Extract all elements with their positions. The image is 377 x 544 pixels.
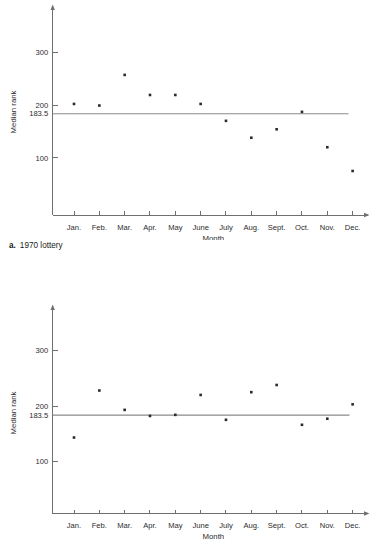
data-point-June	[199, 394, 202, 397]
y-axis-arrow-icon	[51, 5, 55, 11]
chart-panel-b: 300200183.5100Jan.Feb.Mar.Apr.MayJuneJul…	[0, 298, 377, 544]
data-point-Sept	[275, 128, 278, 131]
x-tick-label-Apr: Apr.	[143, 521, 157, 530]
x-tick-label-Oct: Oct.	[295, 223, 309, 232]
y-axis-arrow-icon	[51, 305, 55, 311]
data-point-May	[174, 94, 177, 97]
x-tick-label-May: May	[168, 223, 183, 232]
x-tick-label-Sept: Sept.	[268, 521, 286, 530]
data-point-Dec	[351, 403, 354, 406]
x-axis-title: Month	[202, 532, 224, 541]
x-tick-label-Nov: Nov.	[320, 223, 335, 232]
y-axis-title: Median rank	[9, 90, 18, 133]
x-tick-label-Jan: Jan.	[67, 223, 81, 232]
plot-b-content: 300200183.5100Jan.Feb.Mar.Apr.MayJuneJul…	[9, 305, 370, 542]
y-tick-label-200: 200	[36, 402, 49, 411]
x-tick-label-Feb: Feb.	[92, 223, 107, 232]
data-point-May	[174, 414, 177, 417]
x-axis-arrow-icon	[364, 213, 370, 217]
x-tick-label-Dec: Dec.	[345, 521, 361, 530]
data-point-June	[199, 103, 202, 106]
x-tick-label-Mar: Mar.	[117, 223, 132, 232]
data-point-Jan	[73, 103, 76, 106]
x-tick-label-June: June	[192, 521, 208, 530]
data-point-Oct	[301, 111, 304, 114]
y-tick-label-100: 100	[36, 457, 49, 466]
x-tick-label-July: July	[219, 521, 233, 530]
data-point-Oct	[301, 424, 304, 427]
figure-caption-a: a.1970 lottery	[9, 241, 63, 250]
data-point-Dec	[351, 170, 354, 173]
x-tick-label-Mar: Mar.	[117, 521, 132, 530]
data-point-Nov	[326, 417, 329, 420]
y-axis-title: Median rank	[9, 391, 18, 434]
data-point-July	[225, 419, 228, 422]
x-tick-label-Dec: Dec.	[345, 223, 361, 232]
chart-panel-a: 300200183.5100Jan.Feb.Mar.Apr.MayJuneJul…	[0, 0, 377, 240]
data-point-Feb	[98, 104, 101, 107]
x-tick-label-May: May	[168, 521, 183, 530]
x-tick-label-July: July	[219, 223, 233, 232]
x-tick-label-Sept: Sept.	[268, 223, 286, 232]
y-tick-label-183.5: 183.5	[29, 109, 48, 118]
data-point-Mar	[123, 409, 126, 412]
x-axis-arrow-icon	[364, 511, 370, 515]
data-point-Jan	[73, 436, 76, 439]
scatter-plot-b: 300200183.5100Jan.Feb.Mar.Apr.MayJuneJul…	[0, 298, 377, 544]
x-tick-label-Jan: Jan.	[67, 521, 81, 530]
x-tick-label-Aug: Aug.	[243, 223, 259, 232]
data-point-Nov	[326, 146, 329, 149]
x-tick-label-Oct: Oct.	[295, 521, 309, 530]
data-point-Sept	[275, 384, 278, 387]
y-tick-label-300: 300	[36, 346, 49, 355]
x-tick-label-Apr: Apr.	[143, 223, 157, 232]
caption-letter: a.	[9, 241, 16, 250]
x-tick-label-Aug: Aug.	[243, 521, 259, 530]
caption-text: 1970 lottery	[20, 241, 63, 250]
x-tick-label-Nov: Nov.	[320, 521, 335, 530]
data-point-Mar	[123, 74, 126, 77]
y-tick-label-300: 300	[36, 48, 49, 57]
y-tick-label-100: 100	[36, 154, 49, 163]
data-point-July	[225, 120, 228, 123]
scatter-plot-a: 300200183.5100Jan.Feb.Mar.Apr.MayJuneJul…	[0, 0, 377, 240]
data-point-Apr	[149, 94, 152, 97]
data-point-Apr	[149, 415, 152, 418]
data-point-Aug	[250, 391, 253, 394]
y-tick-label-200: 200	[36, 101, 49, 110]
x-axis-title: Month	[202, 234, 224, 240]
x-tick-label-June: June	[192, 223, 208, 232]
data-point-Feb	[98, 389, 101, 392]
y-tick-label-183.5: 183.5	[29, 411, 48, 420]
x-tick-label-Feb: Feb.	[92, 521, 107, 530]
data-point-Aug	[250, 136, 253, 139]
plot-a-content: 300200183.5100Jan.Feb.Mar.Apr.MayJuneJul…	[9, 5, 370, 241]
